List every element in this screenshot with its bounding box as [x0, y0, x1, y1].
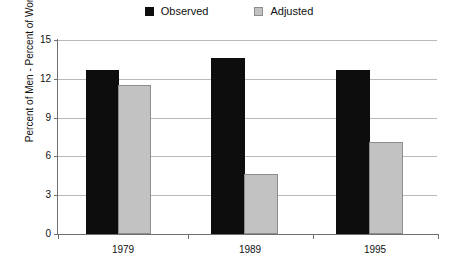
x-tick-1 — [188, 234, 189, 239]
y-tick-label-6: 6 — [45, 150, 51, 161]
y-tick-12 — [54, 79, 58, 80]
chart-legend: Observed Adjusted — [0, 6, 458, 17]
gray-square-icon — [254, 7, 263, 16]
x-axis: 1979 1989 1995 — [0, 234, 458, 263]
y-axis-title: Percent of Men - Percent of Women — [24, 0, 35, 163]
y-tick-9 — [54, 118, 58, 119]
x-tick-2 — [313, 234, 314, 239]
x-tick-label-1989: 1989 — [220, 244, 280, 255]
bar-adjusted-1995 — [369, 142, 403, 234]
legend-label-adjusted: Adjusted — [270, 6, 313, 17]
bar-observed-1995 — [336, 70, 370, 234]
x-tick-label-1979: 1979 — [93, 244, 153, 255]
bar-observed-1979 — [86, 70, 119, 234]
y-tick-label-12: 12 — [40, 73, 51, 84]
plot-area: 15 12 9 6 3 0 — [58, 40, 438, 234]
x-tick-label-1995: 1995 — [345, 244, 405, 255]
bar-observed-1989 — [211, 58, 245, 234]
gridline-15: 15 — [58, 40, 437, 41]
y-tick-label-9: 9 — [45, 112, 51, 123]
x-tick-end — [438, 234, 439, 239]
legend-item-adjusted: Adjusted — [254, 6, 313, 17]
x-tick-start — [58, 234, 59, 239]
y-tick-3 — [54, 195, 58, 196]
legend-item-observed: Observed — [145, 6, 209, 17]
black-square-icon — [145, 7, 154, 16]
y-tick-6 — [54, 156, 58, 157]
y-tick-15 — [54, 40, 58, 41]
y-tick-label-15: 15 — [40, 34, 51, 45]
bar-adjusted-1979 — [118, 85, 151, 234]
legend-label-observed: Observed — [161, 6, 209, 17]
y-tick-label-3: 3 — [45, 189, 51, 200]
bar-adjusted-1989 — [244, 174, 278, 234]
bar-chart: Observed Adjusted Percent of Men - Perce… — [0, 0, 458, 263]
